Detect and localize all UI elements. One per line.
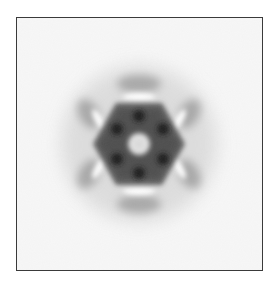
figure-canvas: [0, 0, 279, 285]
micrograph-frame: [16, 17, 263, 271]
class-average-image: [17, 18, 262, 270]
